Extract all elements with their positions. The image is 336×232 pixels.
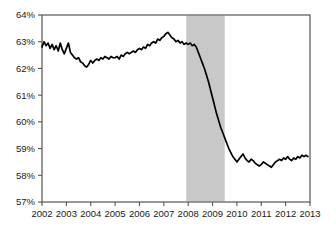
y-axis-ticks: 64%63%62%61%60%59%58%57%	[16, 9, 42, 207]
y-tick-label: 61%	[16, 90, 36, 101]
x-tick-label: 2006	[129, 208, 150, 219]
x-tick-label: 2005	[105, 208, 126, 219]
y-tick-label: 60%	[16, 116, 36, 127]
x-tick-label: 2004	[80, 208, 101, 219]
plot-background	[42, 15, 310, 202]
x-tick-label: 2012	[275, 208, 296, 219]
y-tick-label: 57%	[16, 196, 36, 207]
x-tick-label: 2011	[251, 208, 271, 219]
x-axis-ticks: 2002200320042005200620072008200920102011…	[31, 202, 320, 219]
x-tick-label: 2010	[226, 208, 247, 219]
chart-container: 64%63%62%61%60%59%58%57% 200220032004200…	[0, 0, 336, 232]
x-tick-label: 2003	[56, 208, 77, 219]
x-tick-label: 2008	[178, 208, 199, 219]
x-tick-label: 2007	[153, 208, 174, 219]
y-tick-label: 63%	[16, 36, 36, 47]
y-tick-label: 62%	[16, 63, 36, 74]
x-tick-label: 2009	[202, 208, 223, 219]
y-tick-label: 58%	[16, 170, 36, 181]
y-tick-label: 64%	[16, 9, 36, 20]
shaded-regions	[186, 16, 224, 202]
recession-band	[186, 16, 224, 202]
x-tick-label: 2013	[299, 208, 320, 219]
y-tick-label: 59%	[16, 143, 36, 154]
line-chart: 64%63%62%61%60%59%58%57% 200220032004200…	[0, 0, 336, 232]
x-tick-label: 2002	[31, 208, 52, 219]
